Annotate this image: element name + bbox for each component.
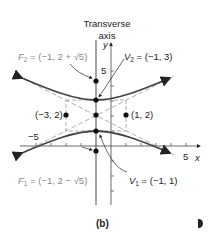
label-V2: V2 = (−1, 3)	[124, 52, 173, 64]
point-F1	[93, 148, 98, 153]
label-F2: F2 = (−1, 2 + √5)	[18, 52, 87, 64]
label-V1: V1 = (−1, 1)	[129, 176, 178, 188]
figure-caption: (b)	[96, 218, 109, 229]
transverse-axis-label-line1: Transverse	[0, 18, 214, 29]
point-V2	[93, 97, 98, 102]
point-left-vertex	[63, 112, 68, 117]
x-axis-label: x	[195, 153, 200, 163]
label-F1: F1 = (−1, 2 − √5)	[18, 176, 87, 188]
x-tick-neg5: −5	[28, 132, 39, 142]
point-F2	[93, 78, 98, 83]
point-center	[93, 112, 98, 117]
point-V1	[93, 128, 98, 133]
point-right-vertex	[123, 112, 128, 117]
y-tick-5: 5	[101, 66, 106, 76]
label-left-vertex: (−3, 2)	[35, 110, 63, 120]
x-tick-5: 5	[183, 152, 188, 162]
y-axis-label: y	[103, 40, 108, 50]
label-right-vertex: (1, 2)	[131, 110, 153, 120]
